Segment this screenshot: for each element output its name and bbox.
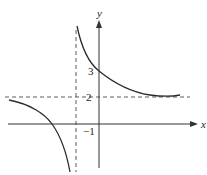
- x-axis-arrow-icon: [190, 121, 198, 127]
- tick-label-2: 2: [86, 91, 92, 103]
- graph-canvas: y x 3 2 −1: [0, 0, 207, 175]
- y-axis-arrow-icon: [96, 20, 102, 28]
- y-axis-label: y: [96, 7, 102, 19]
- x-axis-label: x: [200, 118, 206, 130]
- curve-left-branch: [9, 100, 70, 172]
- tick-label-3: 3: [88, 65, 94, 77]
- curve-right-branch: [77, 26, 180, 96]
- tick-label-minus-1: −1: [83, 125, 95, 137]
